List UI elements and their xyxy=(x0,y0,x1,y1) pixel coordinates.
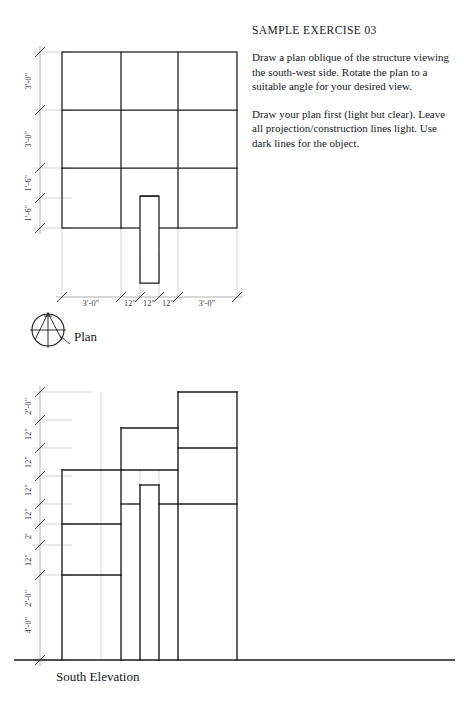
plan-hdim-1: 3'-0" xyxy=(83,299,100,308)
plan-hdim-4: 12" xyxy=(162,299,174,308)
elev-vdim-9: 4'-0" xyxy=(24,617,33,634)
south-elevation-label: South Elevation xyxy=(56,669,139,685)
plan-horizontal-dimension-line: 3'-0" 12" 12" 12" 3'-0" xyxy=(56,292,243,308)
elev-vdim-6: 2' xyxy=(24,533,33,539)
elev-vdim-5: 12" xyxy=(24,508,33,520)
plan-view: 3'-0" 3'-0" 1'-6" 1'-6" 3'-0" 12" 12" xyxy=(24,46,243,308)
plan-hdim-3: 12" xyxy=(143,299,155,308)
north-arrow-icon xyxy=(30,312,70,348)
plan-projection-rectangle xyxy=(140,196,159,283)
elevation-vertical-dimension-line: 2'-0" 12" 12" 12" 12" 2' 12" 2'-0" 4'-0" xyxy=(24,386,45,666)
plan-hdim-2: 12" xyxy=(124,299,136,308)
elev-vdim-2: 12" xyxy=(24,428,33,440)
elev-vdim-8: 2'-0" xyxy=(24,590,33,607)
plan-hdim-5: 3'-0" xyxy=(199,299,216,308)
instruction-paragraph-1: Draw a plan oblique of the structure vie… xyxy=(252,50,452,94)
elev-vdim-1: 2'-0" xyxy=(24,398,33,415)
plan-vdim-4: 1'-6" xyxy=(24,205,33,222)
plan-vdim-1: 3'-0" xyxy=(24,73,33,90)
plan-vertical-dimension-line: 3'-0" 3'-0" 1'-6" 1'-6" xyxy=(24,46,45,234)
elevation-object-outline xyxy=(62,392,237,660)
exercise-title: SAMPLE EXERCISE 03 xyxy=(252,24,452,36)
plan-construction-lines xyxy=(33,52,237,297)
plan-vdim-2: 3'-0" xyxy=(24,131,33,148)
plan-vdim-3: 1'-6" xyxy=(24,175,33,192)
plan-view-label: Plan xyxy=(74,329,97,345)
elev-vdim-7: 12" xyxy=(24,554,33,566)
exercise-sheet: 3'-0" 3'-0" 1'-6" 1'-6" 3'-0" 12" 12" xyxy=(0,0,469,709)
elev-vdim-4: 12" xyxy=(24,484,33,496)
instruction-paragraph-2: Draw your plan first (light but clear). … xyxy=(252,107,452,151)
elev-vdim-3: 12" xyxy=(24,456,33,468)
elevation-construction-lines xyxy=(33,392,178,660)
south-elevation-view: 2'-0" 12" 12" 12" 12" 2' 12" 2'-0" 4'-0" xyxy=(14,386,455,666)
instruction-text-block: SAMPLE EXERCISE 03 Draw a plan oblique o… xyxy=(252,24,452,164)
